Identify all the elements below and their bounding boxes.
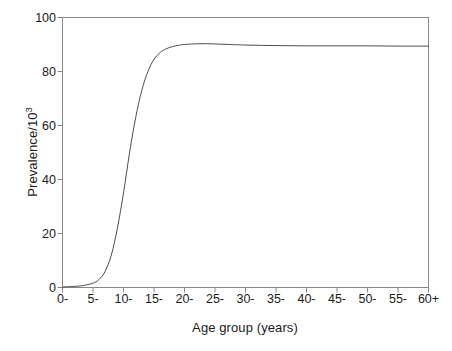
plot-area [0,0,452,351]
chart-figure: Prevalence/103 020406080100 0-5-10-15-20… [0,0,452,351]
axes-frame [63,18,429,288]
tick-marks [58,18,429,293]
prevalence-curve [63,44,429,287]
